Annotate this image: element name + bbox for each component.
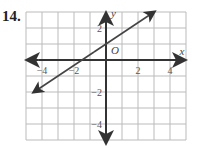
- axes: [28, 14, 184, 142]
- svg-text:4: 4: [168, 65, 173, 76]
- svg-text:−2: −2: [91, 87, 102, 98]
- svg-text:2: 2: [97, 23, 102, 34]
- svg-text:−2: −2: [69, 65, 80, 76]
- coordinate-graph: −4−2242−2−4 x y O: [0, 0, 204, 148]
- svg-text:−4: −4: [37, 65, 48, 76]
- svg-text:−4: −4: [91, 119, 102, 130]
- svg-text:2: 2: [136, 65, 141, 76]
- origin-label: O: [111, 44, 119, 56]
- graph-line: [34, 12, 154, 92]
- x-axis-label: x: [179, 45, 185, 57]
- y-axis-label: y: [110, 7, 116, 19]
